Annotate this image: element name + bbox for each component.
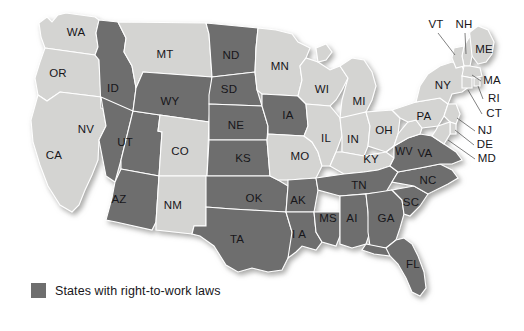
state-label-IN: IN bbox=[347, 133, 359, 145]
state-label-KY: KY bbox=[363, 153, 379, 165]
state-label-RI: RI bbox=[488, 92, 500, 104]
leader-line-DE bbox=[455, 130, 474, 145]
state-label-WI: WI bbox=[315, 83, 329, 95]
state-label-OH: OH bbox=[375, 124, 393, 136]
leader-line-VT bbox=[438, 33, 455, 55]
state-label-MT: MT bbox=[156, 48, 173, 60]
state-label-NJ: NJ bbox=[478, 124, 492, 136]
state-shape-CA bbox=[31, 92, 106, 212]
state-label-AZ: AZ bbox=[111, 193, 126, 205]
state-label-TN: TN bbox=[351, 179, 367, 191]
state-label-OK: OK bbox=[245, 192, 262, 204]
state-label-ME: ME bbox=[475, 43, 493, 55]
state-label-MD: MD bbox=[478, 152, 496, 164]
state-label-DE: DE bbox=[477, 138, 494, 150]
state-label-UT: UT bbox=[117, 136, 133, 148]
state-label-VA: VA bbox=[418, 147, 433, 159]
state-label-KS: KS bbox=[235, 152, 251, 164]
state-label-AL: AI bbox=[346, 212, 357, 224]
state-label-WA: WA bbox=[67, 26, 86, 38]
legend-swatch-right-to-work bbox=[31, 283, 46, 298]
state-label-MA: MA bbox=[483, 74, 501, 86]
state-label-GA: GA bbox=[377, 212, 394, 224]
us-right-to-work-map: WA OR CA ID NV UT AZ MT WY CO NM ND SD N… bbox=[0, 0, 524, 331]
leader-line-NJ bbox=[457, 118, 475, 131]
state-label-MI: MI bbox=[352, 95, 365, 107]
map-svg: WA OR CA ID NV UT AZ MT WY CO NM ND SD N… bbox=[0, 0, 524, 331]
map-legend: States with right-to-work laws bbox=[31, 283, 221, 298]
state-label-CT: CT bbox=[486, 107, 502, 119]
state-label-SC: SC bbox=[403, 196, 419, 208]
state-label-NM: NM bbox=[164, 199, 182, 211]
state-label-SD: SD bbox=[221, 83, 237, 95]
state-label-CO: CO bbox=[171, 145, 189, 157]
leader-line-RI bbox=[478, 86, 483, 99]
state-label-NE: NE bbox=[228, 119, 245, 131]
state-label-FL: FL bbox=[406, 258, 420, 270]
state-shape-CT bbox=[462, 76, 472, 88]
state-label-PA: PA bbox=[417, 110, 432, 122]
state-shape-RI bbox=[474, 78, 480, 86]
state-label-NY: NY bbox=[435, 79, 452, 91]
state-label-NC: NC bbox=[419, 174, 436, 186]
state-label-LA: I A bbox=[292, 228, 306, 240]
state-label-MO: MO bbox=[291, 150, 310, 162]
state-label-IL: IL bbox=[321, 132, 331, 144]
state-label-WV: WV bbox=[395, 145, 412, 157]
state-label-ND: ND bbox=[222, 49, 239, 61]
state-label-NH: NH bbox=[455, 18, 472, 30]
state-label-TX: TA bbox=[230, 233, 244, 245]
state-label-MS: MS bbox=[319, 212, 337, 224]
state-label-AR: AK bbox=[290, 194, 306, 206]
leader-line-CT bbox=[468, 90, 482, 114]
state-shape-DE bbox=[450, 122, 456, 134]
state-label-IA: IA bbox=[282, 109, 293, 121]
state-label-OR: OR bbox=[49, 67, 67, 79]
legend-label-right-to-work: States with right-to-work laws bbox=[55, 284, 221, 298]
state-label-WY: WY bbox=[161, 95, 180, 107]
state-label-CA: CA bbox=[46, 149, 63, 161]
state-label-VT: VT bbox=[428, 18, 443, 30]
state-label-ID: ID bbox=[107, 82, 119, 94]
state-label-NV: NV bbox=[78, 123, 95, 135]
state-label-MN: MN bbox=[271, 60, 289, 72]
